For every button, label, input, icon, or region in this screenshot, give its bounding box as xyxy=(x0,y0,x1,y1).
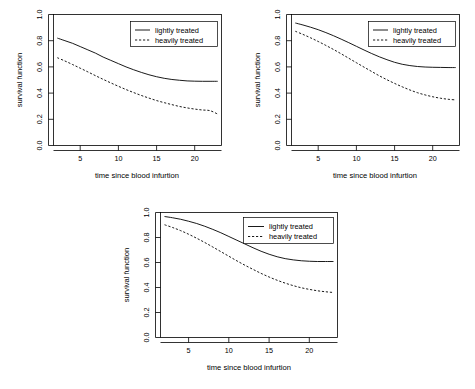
y-tick-label: 0.4 xyxy=(273,88,282,98)
y-tick-label: 0.6 xyxy=(142,258,151,268)
x-tick-label: 10 xyxy=(352,154,360,163)
y-tick-label: 0.8 xyxy=(273,36,282,46)
x-axis-3: 5 10 15 20 time since blood infurtion xyxy=(161,338,338,373)
y-tick-label: 0.0 xyxy=(142,333,151,343)
y-tick-label: 1.0 xyxy=(273,10,282,20)
survival-plot-svg-1: 0.0 0.2 0.4 0.6 0.8 1.0 survival functio… xyxy=(0,0,237,186)
x-tick-label: 20 xyxy=(191,154,199,163)
legend-1: lightly treated heavily treated xyxy=(131,22,218,47)
survival-plot-svg-2: 0.0 0.2 0.4 0.6 0.8 1.0 survival functio… xyxy=(238,0,475,186)
x-tick-label: 10 xyxy=(225,346,233,355)
y-axis-1: 0.0 0.2 0.4 0.6 0.8 1.0 survival functio… xyxy=(15,10,54,151)
plot-panel-top-left: 0.0 0.2 0.4 0.6 0.8 1.0 survival functio… xyxy=(0,0,237,186)
legend-2: lightly treated heavily treated xyxy=(369,22,456,47)
x-axis-title: time since blood infurtion xyxy=(333,171,417,180)
plot-panel-top-right: 0.0 0.2 0.4 0.6 0.8 1.0 survival functio… xyxy=(238,0,475,186)
x-tick-label: 5 xyxy=(78,154,82,163)
y-tick-label: 1.0 xyxy=(142,208,151,218)
y-tick-label: 0.2 xyxy=(273,114,282,124)
y-tick-label: 0.4 xyxy=(142,283,151,293)
x-tick-label: 10 xyxy=(114,154,122,163)
survival-plot-svg-3: 0.0 0.2 0.4 0.6 0.8 1.0 survival functio… xyxy=(107,192,354,389)
y-tick-label: 0.6 xyxy=(35,62,44,72)
legend-label-lightly-treated: lightly treated xyxy=(269,222,313,231)
legend-label-heavily-treated: heavily treated xyxy=(269,232,317,241)
legend-label-heavily-treated: heavily treated xyxy=(393,36,441,45)
y-tick-label: 0.8 xyxy=(142,233,151,243)
y-tick-label: 0.6 xyxy=(273,62,282,72)
legend-3: lightly treated heavily treated xyxy=(244,218,334,244)
x-tick-label: 20 xyxy=(305,346,313,355)
x-tick-label: 20 xyxy=(429,154,437,163)
x-tick-label: 5 xyxy=(316,154,320,163)
y-tick-label: 1.0 xyxy=(35,10,44,20)
legend-label-lightly-treated: lightly treated xyxy=(393,26,437,35)
y-tick-label: 0.4 xyxy=(35,88,44,98)
legend-label-lightly-treated: lightly treated xyxy=(155,26,199,35)
x-axis-2: 5 10 15 20 time since blood infurtion xyxy=(292,146,460,181)
x-axis-title: time since blood infurtion xyxy=(95,171,179,180)
y-tick-label: 0.8 xyxy=(35,36,44,46)
x-tick-label: 15 xyxy=(391,154,399,163)
curve-heavily-treated xyxy=(57,58,217,114)
x-axis-title: time since blood infurtion xyxy=(207,363,291,372)
y-axis-3: 0.0 0.2 0.4 0.6 0.8 1.0 survival functio… xyxy=(122,208,161,343)
x-tick-label: 15 xyxy=(265,346,273,355)
y-axis-2: 0.0 0.2 0.4 0.6 0.8 1.0 survival functio… xyxy=(253,10,292,151)
legend-label-heavily-treated: heavily treated xyxy=(155,36,203,45)
x-tick-label: 5 xyxy=(187,346,191,355)
y-axis-title: survival function xyxy=(122,248,131,302)
y-tick-label: 0.2 xyxy=(142,308,151,318)
x-tick-label: 15 xyxy=(153,154,161,163)
y-tick-label: 0.2 xyxy=(35,114,44,124)
x-axis-1: 5 10 15 20 time since blood infurtion xyxy=(54,146,222,181)
plot-panel-bottom-center: 0.0 0.2 0.4 0.6 0.8 1.0 survival functio… xyxy=(107,192,354,389)
y-axis-title: survival function xyxy=(15,53,24,107)
y-axis-title: survival function xyxy=(253,53,262,107)
y-tick-label: 0.0 xyxy=(35,141,44,151)
y-tick-label: 0.0 xyxy=(273,141,282,151)
